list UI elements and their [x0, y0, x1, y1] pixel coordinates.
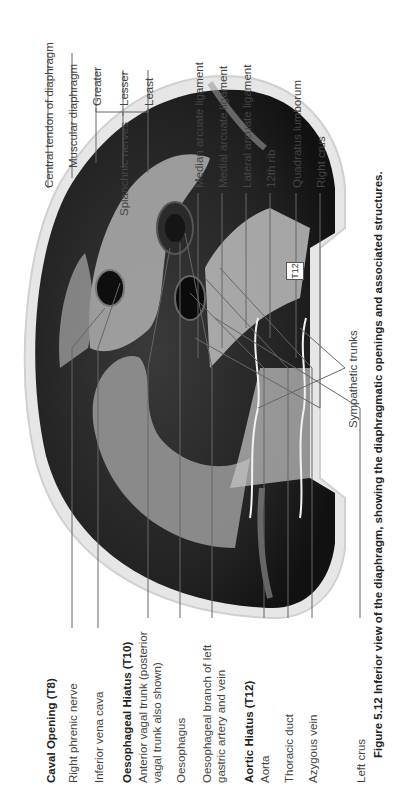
label-inferior-vena-cava: Inferior vena cava [92, 692, 106, 783]
figure-caption-text: Inferior view of the diaphragm, showing … [372, 171, 384, 694]
label-left-crus: Left crus [354, 739, 368, 783]
label-oesophagus: Oesophagus [174, 718, 188, 783]
label-12th-rib: 12th rib [264, 150, 278, 188]
label-oesophageal-branch: Oesophageal branch of left gastric arter… [200, 613, 228, 783]
heading-aortic-hiatus: Aortic Hiatus (T12) [242, 681, 256, 783]
label-least: Least [142, 78, 156, 106]
label-median-arcuate: Median arcuate ligament [192, 62, 206, 188]
label-medial-arcuate: Medial arcuate ligament [216, 66, 230, 188]
label-quadratus-lumborum: Quadratus lumborum [290, 80, 304, 188]
label-splanchnic-nerves: Splanchnic nerves [117, 122, 131, 216]
figure-canvas: T12 Central tendon of diaphragm Muscular… [0, 0, 396, 788]
label-anterior-vagal-trunk: Anterior vagal trunk (posterior vagal tr… [136, 618, 164, 783]
vertebra-marker-t12: T12 [286, 262, 304, 280]
figure-caption: Figure 5.12 Inferior view of the diaphra… [372, 171, 384, 758]
label-lateral-arcuate: Lateral arcuate ligament [240, 65, 254, 188]
label-azygous-vein: Azygous vein [306, 715, 320, 783]
label-right-crus: Right crus [314, 136, 328, 188]
label-muscular-diaphragm: Muscular diaphragm [66, 64, 80, 168]
label-greater: Greater [90, 67, 104, 106]
label-aorta: Aorta [258, 756, 272, 784]
figure-number: Figure 5.12 [372, 697, 384, 758]
label-right-phrenic-nerve: Right phrenic nerve [66, 683, 80, 783]
label-lesser: Lesser [117, 71, 131, 106]
label-central-tendon: Central tendon of diaphragm [42, 42, 56, 188]
heading-oesophageal-hiatus: Oesophageal Hiatus (T10) [120, 642, 134, 783]
heading-caval-opening: Caval Opening (T8) [44, 678, 58, 783]
label-thoracic-duct: Thoracic duct [282, 714, 296, 783]
label-sympathetic-trunks: Sympathetic trunks [346, 330, 360, 428]
